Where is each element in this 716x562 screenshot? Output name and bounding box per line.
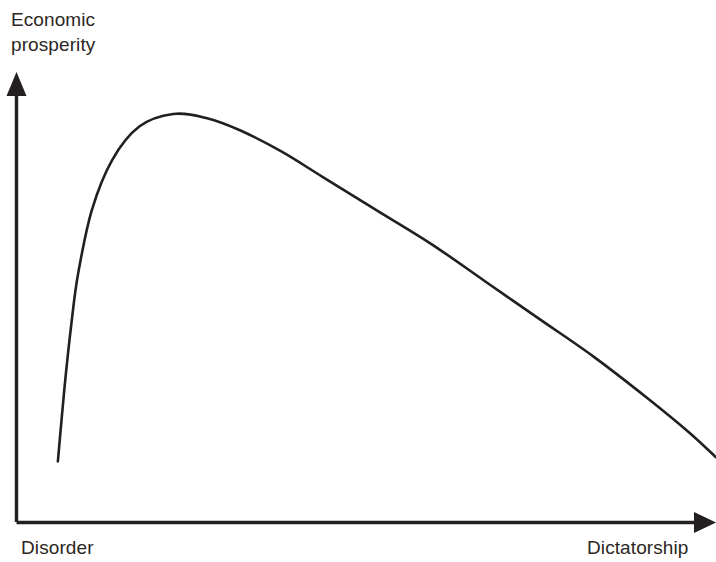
y-axis xyxy=(7,72,27,522)
prosperity-curve-chart xyxy=(0,0,716,562)
x-axis-arrow-icon xyxy=(694,512,716,533)
y-axis-label-line-2: prosperity xyxy=(11,32,171,57)
x-axis-label-right: Dictatorship xyxy=(587,535,689,560)
x-axis xyxy=(17,512,716,533)
prosperity-curve-line xyxy=(58,114,716,462)
y-axis-label: Economic prosperity xyxy=(11,7,171,57)
y-axis-arrow-icon xyxy=(7,72,27,96)
x-axis-label-left: Disorder xyxy=(21,535,94,560)
chart-figure: Economic prosperity Disorder Dictatorshi… xyxy=(0,0,716,562)
y-axis-label-line-1: Economic xyxy=(11,7,171,32)
